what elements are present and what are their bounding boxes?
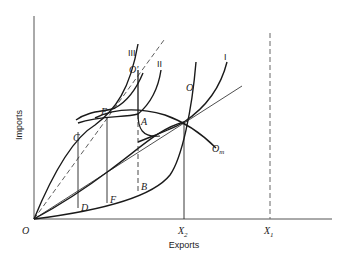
curve-label-om: Om xyxy=(212,143,224,156)
x1-tick-label: X1 xyxy=(263,225,274,239)
indifference-curve-ii xyxy=(78,70,161,123)
dashed-ray xyxy=(34,40,164,219)
offer-curve-diagram: Imports Exports O X2 X1 III II I O' O Om… xyxy=(0,0,345,261)
curve-label-o: O xyxy=(186,82,193,93)
point-label-c: C xyxy=(73,132,80,143)
y-axis-label: Imports xyxy=(14,110,24,141)
point-label-b: B xyxy=(141,181,147,192)
point-label-d: D xyxy=(80,202,89,213)
offer-curve-om xyxy=(95,110,216,148)
point-label-a: A xyxy=(140,116,148,127)
offer-curve-o-prime xyxy=(34,44,138,219)
x-axis-label: Exports xyxy=(169,240,200,250)
curve-label-i: I xyxy=(224,52,227,62)
indifference-curve-i xyxy=(138,62,227,142)
curve-label-ii: II xyxy=(157,59,162,69)
point-label-f: F xyxy=(109,194,117,205)
curve-label-o-prime: O' xyxy=(129,64,139,75)
x2-tick-label: X2 xyxy=(177,225,188,239)
point-label-e: E xyxy=(100,106,107,117)
curve-label-iii: III xyxy=(128,48,136,58)
origin-label: O xyxy=(22,225,29,236)
